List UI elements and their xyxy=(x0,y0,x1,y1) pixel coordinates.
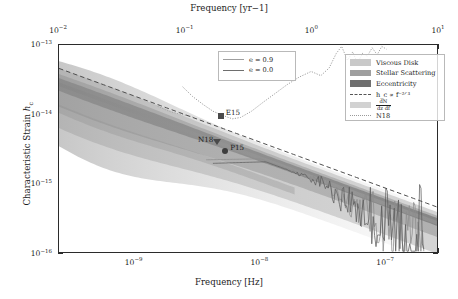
legend-item-label: Eccentricity xyxy=(376,80,416,88)
y-axis-title: Characteristic Strain hc xyxy=(22,74,34,234)
legend-line-swatch xyxy=(350,94,371,96)
legend-item-label: e = 0.9 xyxy=(249,56,273,64)
axis-tick-label: 10−13 xyxy=(18,39,52,50)
legend-item[interactable]: dNdz df xyxy=(350,100,440,110)
legend-item[interactable]: N18 xyxy=(350,111,440,121)
legend-item-label: N18 xyxy=(376,112,390,120)
legend-color-swatch xyxy=(350,70,371,76)
legend-key-icon xyxy=(350,80,371,87)
legend-key-icon xyxy=(350,91,371,98)
top-axis-title: Frequency [yr−1] xyxy=(0,3,458,13)
legend-key-icon xyxy=(350,112,371,119)
bottom-axis-title: Frequency [Hz] xyxy=(0,277,458,287)
axis-tick-label: 10−16 xyxy=(18,248,52,259)
legend-key-icon xyxy=(350,59,371,66)
legend-color-swatch xyxy=(350,102,371,108)
legend-key-icon xyxy=(223,56,244,63)
legend-line-swatch xyxy=(350,115,371,117)
annotation-label-n18: N18 xyxy=(198,135,213,144)
tickmark xyxy=(58,253,63,254)
legend-item[interactable]: Eccentricity xyxy=(350,79,440,89)
legend-key-icon xyxy=(350,70,371,77)
legend-item-label: h_c ∝ f⁻²ᐟ³ xyxy=(376,91,410,99)
axis-tick-label: 10−1 xyxy=(176,24,194,35)
legend-line-swatch xyxy=(223,59,244,60)
legend-color-swatch xyxy=(350,80,371,86)
legend-item[interactable]: h_c ∝ f⁻²ᐟ³ xyxy=(350,90,440,100)
figure-gw-characteristic-strain: Frequency [yr−1] Frequency [Hz] Characte… xyxy=(0,0,458,299)
legend-item[interactable]: Stellar Scattering xyxy=(350,69,440,79)
legend-item-label: Stellar Scattering xyxy=(376,69,436,77)
axis-tick-label: 10−9 xyxy=(125,256,143,267)
annotation-label-p15: P15 xyxy=(230,143,244,152)
legend-color-swatch xyxy=(350,59,371,65)
tickmark xyxy=(433,253,438,254)
legend-key-icon xyxy=(350,102,371,109)
marker-e15 xyxy=(218,113,224,119)
legend-main: Viscous DiskStellar ScatteringEccentrici… xyxy=(345,54,445,121)
legend-item-label: Viscous Disk xyxy=(376,59,418,67)
axis-tick-label: 10−14 xyxy=(18,108,52,119)
legend-item[interactable]: e = 0.9 xyxy=(223,55,291,65)
legend-item-label: e = 0.0 xyxy=(249,66,273,74)
legend-eccentricity: e = 0.9e = 0.0 xyxy=(218,51,296,81)
axis-tick-label: 10−2 xyxy=(49,24,67,35)
tickmark xyxy=(438,248,439,253)
axis-tick-label: 10−8 xyxy=(251,256,269,267)
axis-tick-label: 10−15 xyxy=(18,178,52,189)
axis-tick-label: 100 xyxy=(305,24,318,35)
tickmark xyxy=(438,44,439,49)
legend-fraction-dn-dzdf: dNdz df xyxy=(376,99,391,110)
annotation-label-e15: E15 xyxy=(226,108,240,117)
legend-item[interactable]: e = 0.0 xyxy=(223,66,291,76)
axis-tick-label: 101 xyxy=(431,24,444,35)
axis-tick-label: 10−7 xyxy=(376,256,394,267)
legend-item-label: dNdz df xyxy=(376,99,391,110)
legend-item[interactable]: Viscous Disk xyxy=(350,58,440,68)
marker-n18 xyxy=(213,139,221,145)
legend-line-swatch xyxy=(223,70,244,71)
legend-key-icon xyxy=(223,67,244,74)
